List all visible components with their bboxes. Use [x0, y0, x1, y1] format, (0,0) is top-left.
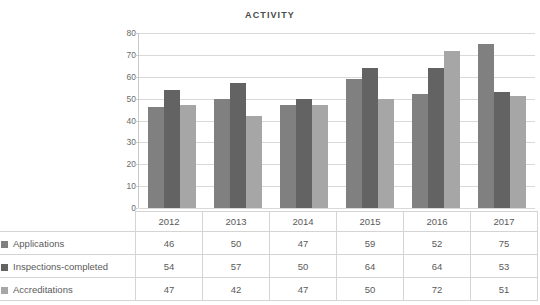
bar-applications-2014 — [280, 105, 296, 208]
y-tick-label-60: 60 — [112, 73, 136, 82]
table-cell-2017: 53 — [471, 255, 538, 278]
table-cell-2013: 42 — [203, 278, 270, 301]
bar-accreditations-2012 — [180, 105, 196, 208]
table-cell-2016: 72 — [404, 278, 471, 301]
chart-title: ACTIVITY — [0, 10, 540, 20]
table-cell-2014: 50 — [270, 255, 337, 278]
bar-inspections-completed-2013 — [230, 83, 246, 208]
legend-swatch-icon — [1, 241, 8, 248]
y-tick-mark-30 — [134, 142, 138, 143]
bar-applications-2016 — [412, 94, 428, 208]
legend-label: Applications — [13, 238, 64, 249]
y-tick-label-10: 10 — [112, 182, 136, 191]
bar-group-2013 — [205, 33, 271, 208]
table-corner-cell — [1, 212, 136, 232]
table-cell-2017: 75 — [471, 232, 538, 255]
table-header-2016: 2016 — [404, 212, 471, 232]
bar-group-2012 — [139, 33, 205, 208]
legend-swatch-icon — [1, 264, 8, 271]
bar-group-2014 — [271, 33, 337, 208]
table-header-row: 2012 2013 2014 2015 2016 2017 — [1, 212, 538, 232]
y-tick-mark-20 — [134, 164, 138, 165]
table-row: Accreditations474247507251 — [1, 278, 538, 301]
y-tick-mark-80 — [134, 33, 138, 34]
table-row-label-inspections-completed: Inspections-completed — [1, 255, 136, 278]
y-tick-mark-40 — [134, 121, 138, 122]
y-tick-label-30: 30 — [112, 138, 136, 147]
table-cell-2012: 54 — [136, 255, 203, 278]
bar-accreditations-2013 — [246, 116, 262, 208]
bar-group-2015 — [337, 33, 403, 208]
y-axis-tick-labels: 01020304050607080 — [112, 28, 136, 208]
y-tick-mark-60 — [134, 77, 138, 78]
table-cell-2016: 64 — [404, 255, 471, 278]
table-cell-2012: 46 — [136, 232, 203, 255]
chart-plot-area: 01020304050607080 — [0, 28, 540, 212]
bar-accreditations-2016 — [444, 51, 460, 209]
bar-group-2016 — [403, 33, 469, 208]
bar-inspections-completed-2016 — [428, 68, 444, 208]
table-row: Applications465047595275 — [1, 232, 538, 255]
bar-inspections-completed-2017 — [494, 92, 510, 208]
table-header-2013: 2013 — [203, 212, 270, 232]
y-tick-label-80: 80 — [112, 29, 136, 38]
y-tick-label-50: 50 — [112, 94, 136, 103]
table-cell-2016: 52 — [404, 232, 471, 255]
bar-accreditations-2017 — [510, 96, 526, 208]
bar-applications-2012 — [148, 107, 164, 208]
bar-inspections-completed-2015 — [362, 68, 378, 208]
y-tick-label-40: 40 — [112, 116, 136, 125]
table-cell-2013: 50 — [203, 232, 270, 255]
chart-bars — [139, 33, 535, 208]
table-cell-2012: 47 — [136, 278, 203, 301]
table-cell-2014: 47 — [270, 278, 337, 301]
table-header-2014: 2014 — [270, 212, 337, 232]
bar-applications-2013 — [214, 99, 230, 208]
table-header-2015: 2015 — [337, 212, 404, 232]
table-header-2012: 2012 — [136, 212, 203, 232]
chart-data-table: 2012 2013 2014 2015 2016 2017 Applicatio… — [0, 211, 538, 301]
y-tick-mark-10 — [134, 186, 138, 187]
table-row: Inspections-completed545750646453 — [1, 255, 538, 278]
bar-group-2017 — [469, 33, 535, 208]
bar-inspections-completed-2014 — [296, 99, 312, 208]
y-tick-label-20: 20 — [112, 160, 136, 169]
bar-inspections-completed-2012 — [164, 90, 180, 208]
table-row-label-accreditations: Accreditations — [1, 278, 136, 301]
legend-swatch-icon — [1, 287, 8, 294]
y-tick-mark-50 — [134, 99, 138, 100]
bar-applications-2017 — [478, 44, 494, 208]
y-tick-label-70: 70 — [112, 51, 136, 60]
table-cell-2017: 51 — [471, 278, 538, 301]
table-cell-2015: 50 — [337, 278, 404, 301]
table-cell-2014: 47 — [270, 232, 337, 255]
legend-label: Inspections-completed — [13, 261, 108, 272]
bar-applications-2015 — [346, 79, 362, 208]
y-tick-mark-70 — [134, 55, 138, 56]
table-cell-2015: 59 — [337, 232, 404, 255]
bar-accreditations-2015 — [378, 99, 394, 208]
gridline-0 — [139, 208, 535, 209]
y-tick-mark-0 — [134, 208, 138, 209]
table-header-2017: 2017 — [471, 212, 538, 232]
table-cell-2015: 64 — [337, 255, 404, 278]
legend-label: Accreditations — [13, 284, 73, 295]
table-cell-2013: 57 — [203, 255, 270, 278]
table-row-label-applications: Applications — [1, 232, 136, 255]
bar-accreditations-2014 — [312, 105, 328, 208]
